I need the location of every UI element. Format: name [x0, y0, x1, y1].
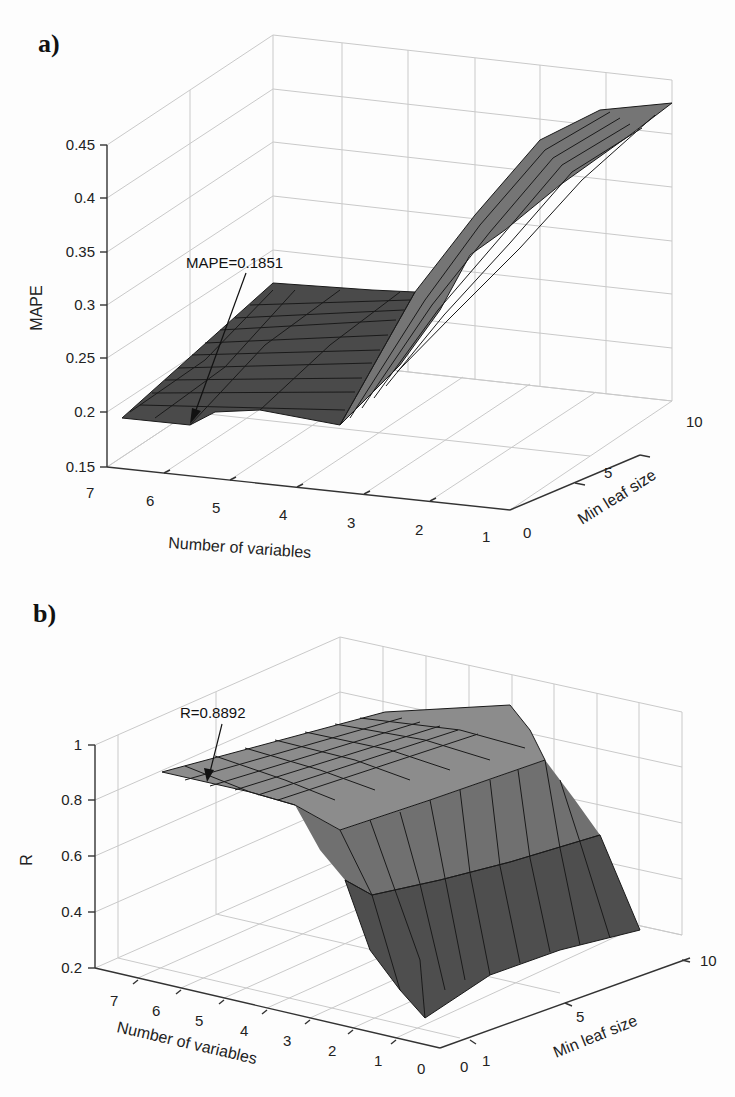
svg-text:0.35: 0.35 [66, 243, 95, 260]
chart-a-ylabel: Min leaf size [575, 466, 660, 528]
chart-b-zlabel: R [18, 854, 35, 866]
svg-text:1: 1 [74, 736, 82, 753]
svg-text:3: 3 [283, 1032, 291, 1049]
svg-text:4: 4 [240, 1022, 248, 1039]
svg-text:0.15: 0.15 [66, 458, 95, 475]
chart-b-xlabel: Number of variables [115, 1018, 258, 1067]
chart-b-surface [162, 705, 640, 1018]
svg-text:1: 1 [482, 528, 490, 545]
svg-text:0.45: 0.45 [66, 136, 95, 153]
svg-text:0.4: 0.4 [74, 189, 95, 206]
svg-text:R=0.8892: R=0.8892 [180, 704, 245, 721]
svg-text:0.6: 0.6 [61, 847, 82, 864]
svg-text:6: 6 [152, 1002, 160, 1019]
svg-text:2: 2 [328, 1042, 336, 1059]
svg-text:5: 5 [195, 1012, 203, 1029]
svg-text:1: 1 [374, 1052, 382, 1069]
chart-a-x-ticks: 7 6 5 4 3 2 1 [86, 484, 490, 545]
svg-text:7: 7 [110, 992, 118, 1009]
panel-b-label: b) [33, 599, 56, 628]
svg-text:0.4: 0.4 [61, 903, 82, 920]
chart-b-ylabel: Min leaf size [551, 1012, 640, 1061]
chart-a-xlabel: Number of variables [168, 534, 312, 561]
chart-a: a) [28, 29, 703, 561]
svg-text:10: 10 [686, 413, 703, 430]
svg-text:MAPE=0.1851: MAPE=0.1851 [186, 254, 283, 271]
svg-text:3: 3 [347, 514, 355, 531]
svg-text:0.25: 0.25 [66, 349, 95, 366]
svg-text:7: 7 [86, 484, 94, 501]
svg-text:4: 4 [279, 506, 287, 523]
svg-text:5: 5 [604, 464, 612, 481]
svg-text:10: 10 [700, 952, 717, 969]
figure: a) [0, 0, 735, 1097]
svg-text:0.2: 0.2 [74, 403, 95, 420]
svg-text:1: 1 [482, 1052, 490, 1069]
svg-text:0: 0 [417, 1060, 425, 1077]
svg-text:0.2: 0.2 [61, 959, 82, 976]
svg-text:5: 5 [576, 1008, 584, 1025]
svg-text:0.3: 0.3 [74, 296, 95, 313]
chart-a-zlabel: MAPE [28, 285, 45, 330]
svg-text:5: 5 [212, 499, 220, 516]
panel-a-label: a) [38, 29, 60, 58]
svg-text:0: 0 [460, 1058, 468, 1075]
chart-b: b) [18, 599, 717, 1077]
svg-text:0.8: 0.8 [61, 791, 82, 808]
chart-b-z-ticks: 1 0.8 0.6 0.4 0.2 [61, 736, 82, 976]
svg-text:6: 6 [146, 492, 154, 509]
svg-text:0: 0 [523, 524, 531, 541]
chart-a-gridlines [107, 35, 672, 510]
chart-a-y-ticks: 0 5 10 [523, 413, 703, 541]
chart-a-z-ticks: 0.45 0.4 0.35 0.3 0.25 0.2 0.15 [66, 136, 95, 475]
svg-text:2: 2 [415, 521, 423, 538]
